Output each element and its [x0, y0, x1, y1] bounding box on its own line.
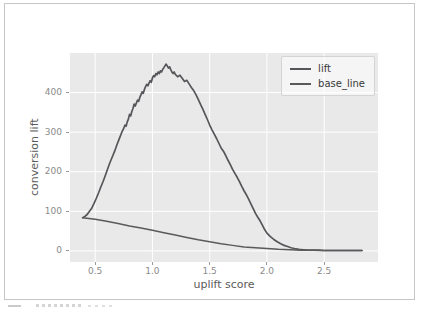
y-tick-mark — [66, 92, 69, 93]
legend-entry-base-line: base_line — [290, 76, 365, 91]
x-tick-label: 0.5 — [88, 266, 102, 276]
legend-label-base-line: base_line — [318, 76, 365, 91]
x-tick-mark — [209, 262, 210, 265]
x-tick-label: 2.0 — [260, 266, 274, 276]
y-axis-label: conversion lift — [27, 53, 41, 262]
x-tick-mark — [324, 262, 325, 265]
scanned-figure-page: lift base_line 0.51.01.52.02.5 010020030… — [0, 0, 425, 310]
plot-area: lift base_line — [70, 53, 378, 262]
series-line-base_line — [83, 218, 362, 251]
x-tick-mark — [95, 262, 96, 265]
y-tick-mark — [66, 171, 69, 172]
legend: lift base_line — [281, 56, 375, 96]
x-tick-mark — [152, 262, 153, 265]
y-tick-mark — [66, 132, 69, 133]
x-tick-label: 2.5 — [317, 266, 331, 276]
lift-line-swatch — [290, 68, 311, 70]
cropped-caption-fragment — [88, 305, 116, 307]
legend-label-lift: lift — [318, 61, 331, 76]
legend-entry-lift: lift — [290, 61, 365, 76]
base-line-swatch — [290, 83, 311, 85]
x-tick-mark — [266, 262, 267, 265]
x-tick-label: 1.5 — [203, 266, 217, 276]
x-axis-label: uplift score — [70, 278, 378, 291]
cropped-caption-fragment — [8, 305, 21, 307]
x-tick-label: 1.0 — [145, 266, 159, 276]
y-tick-mark — [66, 250, 69, 251]
figure-frame: lift base_line 0.51.01.52.02.5 010020030… — [4, 3, 415, 300]
cropped-caption-fragment — [36, 304, 82, 307]
y-tick-mark — [66, 211, 69, 212]
